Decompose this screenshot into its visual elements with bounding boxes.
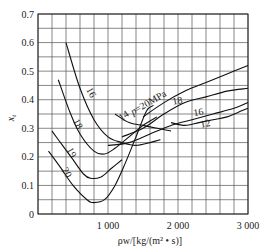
curve-label: 14 <box>116 108 131 123</box>
curve-label: 19 <box>65 145 79 159</box>
curve-label: 20 <box>60 165 74 179</box>
grid <box>38 14 248 214</box>
curve-label: 18 <box>172 94 184 107</box>
x-axis-ticks: 1 0002 0003 000 <box>97 220 260 231</box>
y-tick-label: 0.4 <box>22 94 35 105</box>
y-tick-label: 0.1 <box>22 180 35 191</box>
x-tick-label: 1 000 <box>97 220 120 231</box>
curve-low-flow-18 <box>58 80 157 155</box>
y-tick-label: 0.7 <box>22 9 35 20</box>
chart: 1618192014p=20MPa181612 00.10.20.30.40.5… <box>0 0 267 250</box>
y-tick-label: 0.5 <box>22 66 35 77</box>
x-tick-label: 2 000 <box>167 220 190 231</box>
x-axis-label: ρw/[kg/(m² • s)] <box>118 235 182 247</box>
curve-label: 16 <box>193 106 205 119</box>
y-axis-label: xt <box>5 114 18 122</box>
y-tick-label: 0.6 <box>22 37 35 48</box>
y-tick-label: 0 <box>29 209 34 220</box>
y-tick-label: 0.3 <box>22 123 35 134</box>
curve-label: 16 <box>84 85 98 99</box>
y-axis-ticks: 00.10.20.30.40.50.60.7 <box>22 9 35 220</box>
x-tick-label: 3 000 <box>237 220 260 231</box>
curve-label: 12 <box>200 117 212 130</box>
y-tick-label: 0.2 <box>22 151 35 162</box>
